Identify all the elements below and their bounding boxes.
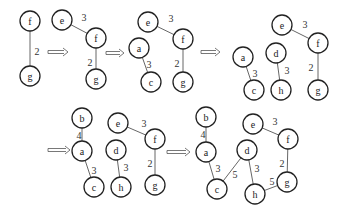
node-label: b <box>204 112 209 123</box>
panel-step-4: 3332efadchg <box>233 15 328 100</box>
node-e: e <box>52 10 72 30</box>
step-arrow-icon <box>48 146 70 154</box>
node-h: h <box>111 177 131 197</box>
node-c: c <box>207 179 227 199</box>
step-arrow-icon <box>106 49 124 57</box>
node-label: g <box>28 71 33 82</box>
node-c: c <box>244 80 264 100</box>
node-label: d <box>274 48 279 59</box>
node-e: e <box>243 114 263 134</box>
node-label: e <box>251 119 256 130</box>
edge-weight-label: 2 <box>35 46 40 57</box>
edge-weight-label: 3 <box>124 162 129 173</box>
edge-weight-label: 3 <box>147 59 152 70</box>
edge-weight-label: 3 <box>303 19 308 30</box>
node-label: d <box>245 145 250 156</box>
edge-weight-label: 3 <box>253 68 258 79</box>
edge-weight-label: 2 <box>280 158 285 169</box>
edge-weight-label: 3 <box>216 163 221 174</box>
panel-step-5: 43332bacedhfg <box>72 108 165 197</box>
edge-weight-label: 3 <box>142 118 147 129</box>
edge-weight-label: 3 <box>273 116 278 127</box>
node-h: h <box>245 184 265 204</box>
node-f: f <box>145 129 165 149</box>
node-a: a <box>233 47 253 67</box>
edge-weight-label: 2 <box>309 62 314 73</box>
node-a: a <box>196 142 216 162</box>
node-d: d <box>237 140 257 160</box>
node-label: h <box>253 189 258 200</box>
edge-weight-label: 5 <box>233 169 238 180</box>
node-g: g <box>20 66 40 86</box>
node-label: g <box>94 74 99 85</box>
node-e: e <box>108 113 128 133</box>
edge-weight-label: 2 <box>88 57 93 68</box>
node-g: g <box>86 69 106 89</box>
node-e: e <box>272 15 292 35</box>
node-label: e <box>116 118 121 129</box>
edge-weight-label: 3 <box>169 13 174 24</box>
edge-weight-label: 4 <box>201 129 206 140</box>
node-b: b <box>196 107 216 127</box>
node-e: e <box>138 12 158 32</box>
edge-weight-label: 3 <box>285 65 290 76</box>
panel-step-2: 32efg <box>52 10 106 89</box>
node-f: f <box>308 33 328 53</box>
node-label: h <box>119 182 124 193</box>
step-arrow-icon <box>167 148 190 156</box>
node-label: e <box>280 20 285 31</box>
node-label: g <box>285 177 290 188</box>
node-f: f <box>86 28 106 48</box>
node-label: a <box>80 146 85 157</box>
diagram-canvas: 2fg32efg332efacg3332efadchg43332bacedhfg… <box>0 0 339 213</box>
node-label: c <box>252 85 257 96</box>
node-label: c <box>92 182 97 193</box>
node-a: a <box>72 141 92 161</box>
node-g: g <box>145 175 165 195</box>
panel-step-1: 2fg <box>20 11 40 86</box>
node-f: f <box>20 11 40 31</box>
edge-weight-label: 3 <box>92 165 97 176</box>
node-d: d <box>106 140 126 160</box>
edge-weight-label: 5 <box>270 176 275 187</box>
node-label: b <box>80 113 85 124</box>
node-h: h <box>271 80 291 100</box>
panel-step-3: 332efacg <box>129 12 193 92</box>
node-c: c <box>84 177 104 197</box>
node-label: a <box>241 52 246 63</box>
node-a: a <box>129 38 149 58</box>
edge-weight-label: 2 <box>148 158 153 169</box>
node-label: e <box>60 15 65 26</box>
node-g: g <box>173 72 193 92</box>
edge-weight-label: 3 <box>255 163 260 174</box>
node-label: c <box>149 77 154 88</box>
node-label: d <box>114 145 119 156</box>
edge-weight-label: 3 <box>82 12 87 23</box>
node-label: c <box>215 184 220 195</box>
node-f: f <box>173 29 193 49</box>
step-arrow-icon <box>201 48 220 56</box>
node-label: g <box>153 180 158 191</box>
node-f: f <box>278 129 298 149</box>
node-label: g <box>316 85 321 96</box>
step-arrow-icon <box>48 48 68 56</box>
node-label: g <box>181 77 186 88</box>
edge-weight-label: 2 <box>175 58 180 69</box>
graph-steps-diagram: 2fg32efg332efacg3332efadchg43332bacedhfg… <box>0 0 339 213</box>
node-g: g <box>277 172 297 192</box>
node-c: c <box>141 72 161 92</box>
node-label: a <box>204 147 209 158</box>
node-b: b <box>72 108 92 128</box>
edge-weight-label: 4 <box>77 130 82 141</box>
node-d: d <box>266 43 286 63</box>
node-label: e <box>146 17 151 28</box>
panel-step-6: 4353325bacdefhg <box>196 107 298 204</box>
node-label: h <box>279 85 284 96</box>
node-label: a <box>137 43 142 54</box>
node-g: g <box>308 80 328 100</box>
